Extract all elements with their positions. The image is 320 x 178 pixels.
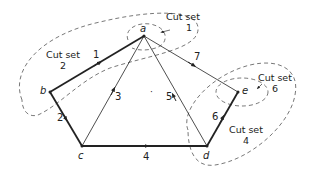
edge-7-arrow-icon (188, 62, 194, 66)
cut-set-2-title: Cut set (46, 49, 80, 60)
edge-1-label: 1 (93, 50, 99, 60)
vertex-d-label: d (203, 151, 209, 161)
edge-6-label: 6 (212, 112, 218, 122)
edge-3-label: 3 (115, 92, 121, 102)
vertex-c-label: c (78, 151, 84, 161)
vertex-e-dot (237, 91, 240, 94)
center-mark: · (150, 88, 153, 97)
cut-set-2-label: Cut set 2 (46, 49, 80, 71)
cut-set-6-label: Cut set 6 (258, 72, 292, 94)
vertex-c-dot (81, 145, 84, 148)
cut-set-4-title: Cut set (229, 124, 263, 135)
cut-set-1-title: Cut set (166, 11, 200, 22)
cut-set-1-label: Cut set 1 (166, 11, 200, 33)
cut-set-2-number: 2 (46, 60, 80, 71)
cut-set-6-title: Cut set (258, 72, 292, 83)
vertex-e-label: e (242, 86, 248, 96)
edge-5-arrow-icon (173, 95, 176, 101)
vertex-d-dot (206, 145, 209, 148)
cut-set-1-number: 1 (166, 22, 200, 33)
edge-1-arrow-icon (94, 62, 100, 66)
cut-set-4-label: Cut set 4 (229, 124, 263, 146)
edge-5-label: 5 (166, 92, 172, 102)
edge-2-label: 2 (57, 113, 63, 123)
vertex-b-dot (49, 91, 52, 94)
vertex-a-dot (143, 35, 146, 38)
cut-set-6-number: 6 (258, 83, 292, 94)
edge-7-label: 7 (194, 52, 200, 62)
cut-set-4-number: 4 (229, 135, 263, 146)
vertex-a-label: a (140, 24, 146, 34)
edge-4-label: 4 (143, 152, 149, 162)
edge-3-arrow-icon (111, 89, 114, 95)
cut-set-1-boundary (127, 24, 165, 50)
vertex-b-label: b (40, 86, 46, 96)
